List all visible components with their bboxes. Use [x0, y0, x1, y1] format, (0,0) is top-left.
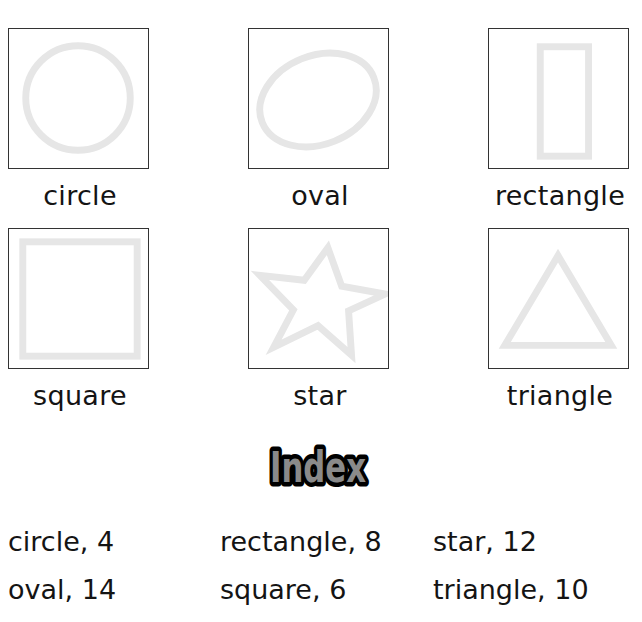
shape-card-square: square: [8, 228, 152, 369]
shape-box: [488, 228, 629, 369]
shape-card-rectangle: rectangle: [488, 28, 632, 169]
shape-card-triangle: triangle: [488, 228, 632, 369]
shape-label: oval: [218, 180, 422, 211]
index-entry: triangle, 10: [433, 574, 589, 605]
index-entry: circle, 4: [8, 526, 114, 557]
shape-card-oval: oval: [248, 28, 392, 169]
shape-label: star: [218, 380, 422, 411]
shape-label: circle: [0, 180, 182, 211]
index-entry: oval, 14: [8, 574, 116, 605]
rectangle-shape-icon: [489, 29, 628, 168]
triangle-shape-icon: [489, 229, 628, 368]
shape-label: triangle: [458, 380, 642, 411]
shape-box: [8, 28, 149, 169]
index-heading-text: Index: [270, 443, 366, 492]
square-shape-icon: [9, 229, 148, 368]
circle-shape-icon: [9, 29, 148, 168]
shape-label: square: [0, 380, 182, 411]
index-entry: star, 12: [433, 526, 537, 557]
shape-card-circle: circle: [8, 28, 152, 169]
star-shape-icon: [249, 229, 388, 368]
shape-box: [8, 228, 149, 369]
index-entry: rectangle, 8: [220, 526, 382, 557]
oval-shape-icon: [249, 29, 388, 168]
index-entry: square, 6: [220, 574, 346, 605]
index-heading: Index Index: [262, 440, 374, 492]
shape-box: [248, 228, 389, 369]
shape-box: [488, 28, 629, 169]
shape-box: [248, 28, 389, 169]
shape-label: rectangle: [458, 180, 642, 211]
shape-card-star: star: [248, 228, 392, 369]
